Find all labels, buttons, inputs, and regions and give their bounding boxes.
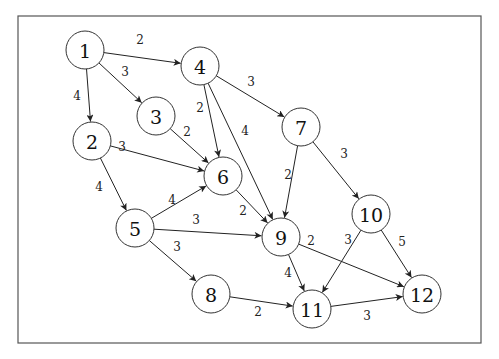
graph-node-8: 8 [192, 275, 230, 313]
edge-weight-label: 3 [118, 140, 126, 154]
edge-weight-label: 4 [95, 180, 103, 194]
node-label: 2 [86, 131, 98, 153]
edge-weight-label: 3 [340, 147, 348, 161]
edge-weight-label: 4 [241, 124, 249, 138]
graph-node-9: 9 [262, 218, 300, 256]
edge-weight-label: 5 [398, 235, 406, 249]
edge-9-to-12 [299, 244, 404, 287]
graph-node-6: 6 [204, 157, 242, 195]
edge-weight-label: 2 [254, 305, 262, 319]
edge-weight-label: 4 [73, 89, 81, 103]
edge-weight-label: 3 [173, 240, 181, 254]
node-label: 4 [194, 56, 206, 78]
edge-10-to-11 [322, 230, 361, 292]
node-label: 6 [217, 166, 229, 188]
edge-10-to-12 [381, 230, 411, 278]
edge-weight-label: 2 [183, 125, 191, 139]
node-label: 9 [275, 227, 287, 249]
edge-1-to-2 [87, 69, 91, 122]
edge-weight-label: 4 [284, 266, 292, 280]
graph-node-2: 2 [73, 122, 111, 160]
node-label: 12 [410, 284, 434, 306]
graph-node-11: 11 [293, 290, 331, 328]
edge-1-to-4 [104, 53, 181, 64]
graph-canvas: 234324234232433423523 123456789101112 [0, 0, 499, 359]
node-label: 7 [295, 117, 307, 139]
edge-weight-label: 3 [363, 309, 371, 323]
graph-node-1: 1 [66, 31, 104, 69]
node-label: 1 [79, 40, 91, 62]
graph-node-5: 5 [116, 209, 154, 247]
node-label: 10 [359, 204, 383, 226]
edge-5-to-9 [154, 229, 262, 236]
node-label: 3 [150, 106, 162, 128]
edge-11-to-12 [331, 297, 403, 307]
edge-7-to-10 [313, 142, 359, 199]
edges-layer [87, 53, 412, 307]
edge-weight-label: 3 [344, 233, 352, 247]
graph-node-10: 10 [352, 195, 390, 233]
graph-node-7: 7 [282, 108, 320, 146]
edge-weight-label: 2 [307, 234, 315, 248]
node-label: 8 [205, 284, 217, 306]
graph-node-4: 4 [181, 47, 219, 85]
edge-4-to-6 [204, 85, 219, 157]
edge-weight-label: 2 [136, 33, 144, 47]
edge-weight-label: 2 [239, 204, 247, 218]
edge-weight-label: 4 [168, 193, 176, 207]
edge-weight-label: 3 [192, 213, 200, 227]
node-label: 5 [129, 218, 141, 240]
edge-weight-label: 2 [284, 168, 292, 182]
graph-node-3: 3 [137, 97, 175, 135]
edge-weight-label: 3 [121, 65, 129, 79]
node-label: 11 [300, 299, 324, 321]
edge-2-to-5 [100, 158, 126, 211]
edge-weight-label: 2 [196, 101, 204, 115]
edge-weight-label: 3 [247, 75, 255, 89]
graph-node-12: 12 [403, 275, 441, 313]
